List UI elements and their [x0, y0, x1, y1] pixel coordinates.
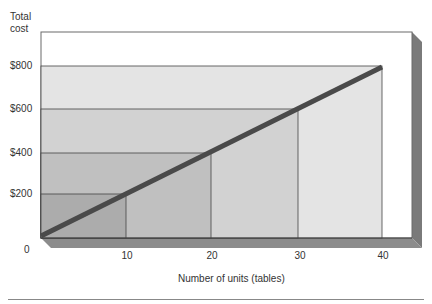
frame-right-side: [412, 32, 422, 248]
y-tick-400: $400: [10, 147, 32, 158]
x-axis-title: Number of units (tables): [178, 273, 285, 284]
frame-bottom-side: [41, 238, 422, 248]
y-tick-600: $600: [10, 103, 32, 114]
y-tick-800: $800: [10, 60, 32, 71]
x-tick-40: 40: [377, 250, 388, 261]
y-tick-0: 0: [24, 244, 30, 255]
y-tick-200: $200: [10, 188, 32, 199]
x-tick-30: 30: [294, 250, 305, 261]
x-tick-10: 10: [121, 250, 132, 261]
bottom-divider: [8, 299, 424, 300]
x-tick-20: 20: [206, 250, 217, 261]
